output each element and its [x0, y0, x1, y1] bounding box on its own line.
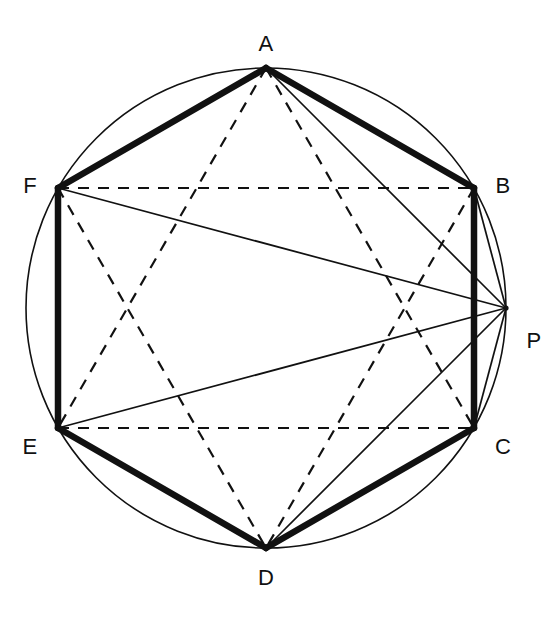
- edge-AB: [266, 68, 474, 188]
- vertex-label-D: D: [258, 567, 274, 589]
- geometry-figure: A B C D E F P: [0, 0, 554, 619]
- vertex-label-F: F: [23, 175, 37, 197]
- edge-FA: [58, 68, 266, 188]
- vertex-dot-E: [55, 425, 60, 430]
- vertex-label-P: P: [527, 330, 542, 352]
- ray-PB: [474, 188, 506, 308]
- vertex-dot-F: [55, 185, 60, 190]
- edge-DE: [58, 428, 266, 548]
- vertex-dot-group: [55, 65, 508, 550]
- vertex-label-E: E: [23, 436, 38, 458]
- chord-AC: [266, 68, 474, 428]
- vertex-label-C: C: [495, 436, 511, 458]
- vertex-label-A: A: [259, 33, 274, 55]
- vertex-dot-P: [503, 305, 508, 310]
- vertex-dot-A: [263, 65, 268, 70]
- p-ray-group: [58, 68, 506, 548]
- hexagon-edge-group: [58, 68, 474, 548]
- vertex-dot-D: [263, 545, 268, 550]
- vertex-dot-C: [471, 425, 476, 430]
- ray-PC: [474, 308, 506, 428]
- vertex-dot-B: [471, 185, 476, 190]
- chord-BD: [266, 188, 474, 548]
- chord-FD: [58, 188, 266, 548]
- dashed-chord-group: [58, 68, 474, 548]
- geometry-canvas: [0, 0, 554, 619]
- edge-CD: [266, 428, 474, 548]
- chord-AE: [58, 68, 266, 428]
- circumcircle: [26, 68, 506, 548]
- vertex-label-B: B: [496, 175, 511, 197]
